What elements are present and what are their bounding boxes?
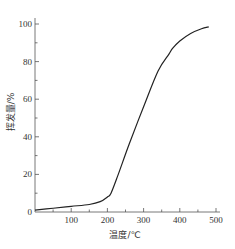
x-tick-label: 100 [64, 215, 78, 225]
x-tick-label: 500 [209, 215, 223, 225]
x-axis-title: 温度/℃ [109, 229, 140, 240]
x-tick-label: 300 [137, 215, 151, 225]
volatilization-chart: 100200300400500020406080100 温度/℃ 挥发量/% [0, 0, 235, 249]
x-tick-label: 400 [173, 215, 187, 225]
volatilization-curve [35, 27, 209, 210]
y-tick-label: 20 [23, 169, 33, 179]
y-axis-title: 挥发量/% [5, 92, 16, 131]
y-tick-label: 60 [23, 94, 33, 104]
y-tick-label: 80 [23, 57, 33, 67]
y-tick-label: 40 [23, 132, 33, 142]
y-tick-label: 100 [19, 19, 33, 29]
x-tick-label: 200 [101, 215, 115, 225]
axes [35, 18, 220, 212]
ticks: 100200300400500020406080100 [19, 19, 224, 225]
y-tick-label: 0 [28, 207, 33, 217]
